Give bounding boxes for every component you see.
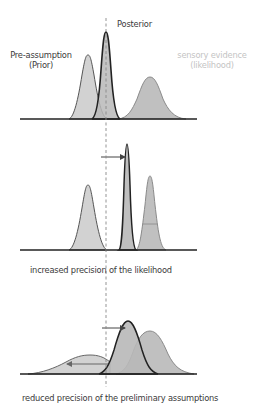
prior-label-line1: Pre-assumption xyxy=(5,50,77,60)
prior-label-line2: (Prior) xyxy=(5,60,77,70)
prior-label: Pre-assumption (Prior) xyxy=(5,50,77,70)
panel1-likelihood-curve xyxy=(118,77,186,119)
panel2-prior-curve xyxy=(69,185,107,250)
panel-2 xyxy=(20,144,197,250)
likelihood-label-line1: sensory evidence xyxy=(170,50,254,60)
panel-3 xyxy=(20,321,197,374)
posterior-label: Posterior xyxy=(117,19,152,29)
likelihood-label: sensory evidence (likelihood) xyxy=(170,50,254,70)
panel3-caption: reduced precision of the preliminary ass… xyxy=(22,393,218,403)
likelihood-label-line2: (likelihood) xyxy=(170,60,254,70)
panel-1 xyxy=(20,32,197,119)
panel2-caption: increased precision of the likelihood xyxy=(30,265,172,275)
panel2-posterior-curve xyxy=(119,144,136,250)
panel2-likelihood-curve xyxy=(136,176,166,250)
